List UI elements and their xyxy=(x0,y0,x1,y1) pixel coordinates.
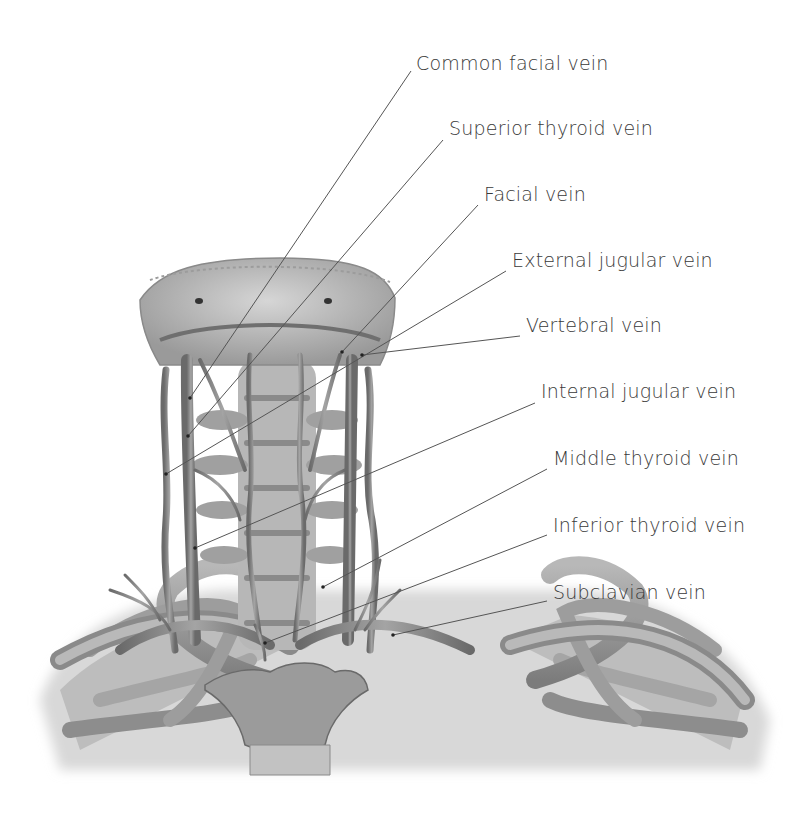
label-inferior-thyroid-vein: Inferior thyroid vein xyxy=(553,514,745,536)
label-internal-jugular-vein: Internal jugular vein xyxy=(541,380,736,402)
label-vertebral-vein: Vertebral vein xyxy=(526,314,662,336)
anatomy-illustration xyxy=(0,0,804,813)
label-common-facial-vein: Common facial vein xyxy=(416,52,609,74)
neck-veins-diagram: Common facial vein Superior thyroid vein… xyxy=(0,0,804,813)
label-superior-thyroid-vein: Superior thyroid vein xyxy=(449,117,653,139)
label-subclavian-vein: Subclavian vein xyxy=(553,581,706,603)
label-middle-thyroid-vein: Middle thyroid vein xyxy=(553,447,739,469)
leader-middle-thyroid-vein xyxy=(323,469,547,587)
label-facial-vein: Facial vein xyxy=(484,183,586,205)
skull-base xyxy=(140,258,395,365)
label-external-jugular-vein: External jugular vein xyxy=(512,249,713,271)
